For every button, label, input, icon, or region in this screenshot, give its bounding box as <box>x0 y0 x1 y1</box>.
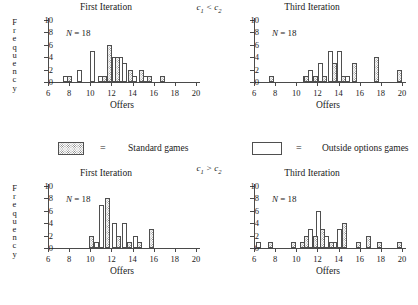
x-axis-label: 20 <box>398 254 407 264</box>
bar-standard <box>89 236 94 248</box>
bar-standard <box>137 242 142 248</box>
x-axis-label: 8 <box>273 254 277 264</box>
chart-title: First Iteration <box>46 2 166 12</box>
x-axis-label: 12 <box>107 88 116 98</box>
x-axis-tick <box>402 82 403 86</box>
lt-operator: < <box>206 2 212 12</box>
x-axis-tick <box>133 248 134 252</box>
x-axis-line <box>254 82 406 83</box>
x-axis-tick <box>360 82 361 86</box>
y-axis-title: Frequency <box>10 184 19 258</box>
y-axis-label: 6 <box>39 206 53 216</box>
legend: = Standard games = Outside options games <box>0 138 418 160</box>
x-axis-tick <box>175 248 176 252</box>
bar-standard <box>397 242 402 248</box>
c2-subscript: 2 <box>218 168 221 175</box>
bar-standard <box>127 242 132 248</box>
x-axis-tick <box>196 248 197 252</box>
bar-standard <box>322 76 327 82</box>
outside-options-swatch <box>252 142 282 155</box>
y-axis-label: 10 <box>39 181 53 191</box>
bar-standard <box>304 76 309 82</box>
y-axis-label: 10 <box>245 15 259 25</box>
bar-outside-options <box>337 229 342 248</box>
sample-size-label: N = 18 <box>272 28 297 38</box>
x-axis-label: 8 <box>67 88 71 98</box>
bar-standard <box>366 236 371 248</box>
bar-outside-options <box>256 242 261 248</box>
y-axis-label: 2 <box>39 231 53 241</box>
x-axis-title: Offers <box>92 266 152 276</box>
x-axis-tick <box>175 82 176 86</box>
y-axis-label: 10 <box>245 181 259 191</box>
x-axis-label: 18 <box>377 88 386 98</box>
bar-standard <box>320 229 325 248</box>
x-axis-label: 18 <box>171 88 180 98</box>
y-axis-label: 6 <box>245 206 259 216</box>
y-axis-label: 10 <box>39 15 53 25</box>
x-axis-label: 12 <box>313 88 322 98</box>
x-axis-label: 6 <box>252 254 256 264</box>
x-axis-label: 6 <box>252 88 256 98</box>
x-axis-label: 6 <box>46 254 50 264</box>
x-axis-tick <box>296 248 297 252</box>
x-axis-label: 20 <box>398 88 407 98</box>
bar-outside-options <box>94 242 99 248</box>
bar-outside-options <box>77 70 82 82</box>
y-axis-label: 2 <box>39 65 53 75</box>
bar-standard <box>352 63 357 82</box>
x-axis-tick <box>317 82 318 86</box>
y-axis-label: 6 <box>245 40 259 50</box>
x-axis-tick <box>275 248 276 252</box>
bar-standard <box>128 70 133 82</box>
chart-title: First Iteration <box>46 168 166 178</box>
bar-outside-options <box>122 63 127 82</box>
bar-standard <box>149 229 154 248</box>
x-axis-tick <box>254 248 255 252</box>
y-axis-label: 4 <box>245 218 259 228</box>
bar-standard <box>67 76 72 82</box>
y-axis-label: 4 <box>39 218 53 228</box>
legend-equals-1: = <box>100 142 106 153</box>
chart-bottom-right: Third Iteration024681068101214161820Offe… <box>214 178 410 278</box>
x-axis-label: 14 <box>128 88 137 98</box>
bar-standard <box>268 242 273 248</box>
y-axis-label: 4 <box>39 52 53 62</box>
x-axis-label: 18 <box>377 254 386 264</box>
bar-standard <box>105 198 110 248</box>
x-axis-title: Offers <box>298 266 358 276</box>
y-axis-label: 0 <box>39 243 53 253</box>
x-axis-tick <box>196 82 197 86</box>
x-axis-tick <box>111 82 112 86</box>
bar-standard <box>304 236 309 248</box>
x-axis-label: 8 <box>67 254 71 264</box>
x-axis-tick <box>154 82 155 86</box>
standard-games-swatch <box>58 142 84 155</box>
bar-outside-options <box>99 205 104 248</box>
bar-standard <box>313 76 318 82</box>
bar-standard <box>377 242 382 248</box>
x-axis-label: 14 <box>128 254 137 264</box>
bar-standard <box>102 76 107 82</box>
x-axis-label: 10 <box>292 88 301 98</box>
bar-standard <box>116 236 121 248</box>
x-axis-tick <box>111 248 112 252</box>
x-axis-label: 14 <box>334 88 343 98</box>
bar-standard <box>291 242 296 248</box>
y-axis-title-letter: y <box>10 250 19 258</box>
y-axis-label: 2 <box>245 231 259 241</box>
bar-standard <box>374 57 379 82</box>
chart-bottom-left: First Iteration024681068101214161820Offe… <box>8 178 204 278</box>
y-axis-label: 8 <box>39 27 53 37</box>
x-axis-label: 6 <box>46 88 50 98</box>
chart-title: Third Iteration <box>252 2 372 12</box>
legend-equals-2: = <box>296 142 302 153</box>
y-axis-label: 0 <box>39 77 53 87</box>
x-axis-tick <box>154 248 155 252</box>
bar-standard <box>269 76 274 82</box>
sample-size-label: N = 18 <box>66 28 91 38</box>
x-axis-tick <box>317 248 318 252</box>
bar-standard <box>397 70 402 82</box>
chart-top-right: Third Iteration024681068101214161820Offe… <box>214 12 410 112</box>
y-axis-title: Frequency <box>10 18 19 92</box>
